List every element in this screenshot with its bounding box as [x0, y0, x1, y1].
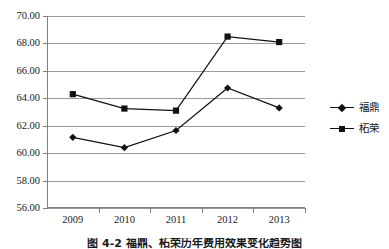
y-axis-tick	[43, 208, 48, 209]
data-point-marker	[276, 104, 283, 111]
legend-item-1[interactable]: 福鼎	[330, 97, 389, 118]
y-axis-label: 64.00	[16, 93, 40, 104]
data-point-marker	[173, 108, 179, 114]
y-axis-label: 60.00	[16, 148, 40, 159]
x-axis-label: 2010	[114, 215, 135, 226]
x-axis-label: 2009	[62, 215, 83, 226]
series-square	[70, 33, 283, 113]
x-axis-line	[47, 207, 305, 208]
diamond-marker-icon	[330, 102, 354, 114]
y-axis-label: 68.00	[16, 38, 40, 49]
square-marker-icon	[330, 123, 354, 135]
x-axis-tick	[202, 208, 203, 213]
data-point-marker	[121, 105, 127, 111]
x-axis-tick	[253, 208, 254, 213]
x-axis-label: 2012	[217, 215, 238, 226]
data-point-marker	[225, 33, 231, 39]
chart-legend: 福鼎柘荣	[330, 97, 389, 139]
legend-label: 福鼎	[359, 102, 379, 113]
x-axis-tick	[99, 208, 100, 213]
series-line	[73, 88, 279, 148]
y-axis-label: 62.00	[16, 120, 40, 131]
x-axis-tick	[305, 208, 306, 213]
line-chart: 70.0068.0066.0064.0062.0060.0058.0056.00…	[0, 0, 389, 249]
y-axis-label: 70.00	[16, 11, 40, 22]
x-axis-tick	[150, 208, 151, 213]
data-point-marker	[121, 144, 128, 151]
x-axis-label: 2013	[269, 215, 290, 226]
legend-key-marker	[339, 126, 345, 132]
y-axis-label: 56.00	[16, 203, 40, 214]
gridline	[47, 208, 305, 209]
data-point-marker	[69, 134, 76, 141]
series-layer	[47, 16, 305, 208]
legend-item-2[interactable]: 柘荣	[330, 118, 389, 139]
series-line	[73, 37, 279, 111]
figure-caption: 图 4-2 福鼎、柘荣历年费用效果变化趋势图	[0, 238, 389, 249]
data-point-marker	[276, 39, 282, 45]
data-point-marker	[70, 91, 76, 97]
legend-key-marker	[338, 103, 346, 111]
y-axis-label: 66.00	[16, 66, 40, 77]
plot-area: 70.0068.0066.0064.0062.0060.0058.0056.00	[47, 16, 305, 208]
x-axis-label: 2011	[166, 215, 187, 226]
series-diamond	[69, 84, 283, 151]
y-axis-label: 58.00	[16, 175, 40, 186]
legend-label: 柘荣	[359, 123, 379, 134]
